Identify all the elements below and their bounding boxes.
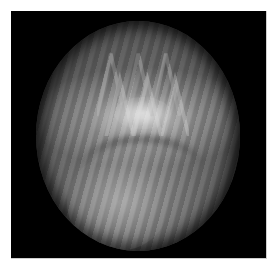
diagonal-stripe-texture	[36, 21, 240, 251]
image-frame	[11, 11, 267, 259]
circular-scan-view	[36, 21, 240, 251]
